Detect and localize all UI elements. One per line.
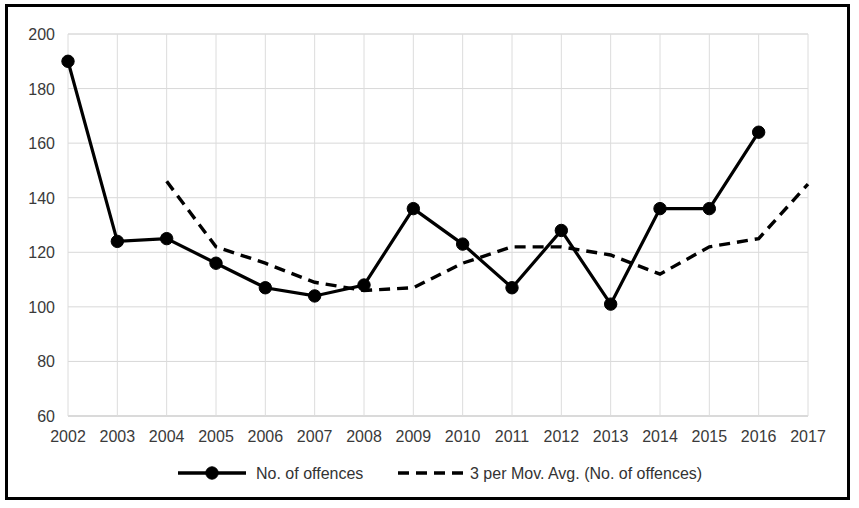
chart-frame: 6080100120140160180200 20022003200420052… <box>5 4 850 500</box>
line-chart: 6080100120140160180200 20022003200420052… <box>8 7 853 503</box>
x-axis-tick-label: 2017 <box>790 428 826 445</box>
x-axis-tick-label: 2005 <box>198 428 234 445</box>
data-point-marker <box>160 232 172 244</box>
y-axis-tick-label: 160 <box>28 135 55 152</box>
x-axis-tick-label: 2016 <box>741 428 777 445</box>
x-axis-tick-label: 2008 <box>346 428 382 445</box>
legend-layer: No. of offences3 per Mov. Avg. (No. of o… <box>178 465 702 482</box>
y-axis-tick-label: 80 <box>37 353 55 370</box>
y-axis-tick-label: 60 <box>37 408 55 425</box>
y-axis-tick-label: 100 <box>28 299 55 316</box>
data-point-marker <box>703 202 715 214</box>
data-point-marker <box>111 235 123 247</box>
x-axis-tick-label: 2009 <box>396 428 432 445</box>
x-axis-tick-label: 2011 <box>495 428 530 445</box>
data-point-marker <box>654 202 666 214</box>
x-axis-tick-label: 2002 <box>50 428 86 445</box>
x-axis-tick-label: 2013 <box>593 428 629 445</box>
legend-label-offences: No. of offences <box>256 465 363 482</box>
data-point-marker <box>308 290 320 302</box>
data-point-marker <box>407 202 419 214</box>
chart-canvas: 6080100120140160180200 20022003200420052… <box>8 7 847 497</box>
legend-marker-offences <box>206 467 218 479</box>
x-axis-tick-label: 2014 <box>642 428 678 445</box>
y-axis-tick-label: 200 <box>28 26 55 43</box>
y-axis-tick-label: 120 <box>28 244 55 261</box>
y-axis-tick-label: 180 <box>28 81 55 98</box>
series-layer <box>62 55 808 310</box>
data-point-marker <box>456 238 468 250</box>
y-axis-tick-label: 140 <box>28 190 55 207</box>
data-point-marker <box>752 126 764 138</box>
data-point-marker <box>210 257 222 269</box>
x-axis-tick-label: 2010 <box>445 428 481 445</box>
data-point-marker <box>604 298 616 310</box>
x-axis-tick-label: 2012 <box>544 428 580 445</box>
x-axis-tick-labels: 2002200320042005200620072008200920102011… <box>50 428 826 445</box>
x-axis-tick-label: 2003 <box>100 428 136 445</box>
data-point-marker <box>259 282 271 294</box>
data-point-marker <box>62 55 74 67</box>
legend-label-moving-average: 3 per Mov. Avg. (No. of offences) <box>470 465 702 482</box>
data-point-marker <box>506 282 518 294</box>
x-axis-tick-label: 2004 <box>149 428 185 445</box>
x-axis-tick-label: 2015 <box>692 428 728 445</box>
data-point-marker <box>555 224 567 236</box>
x-axis-tick-label: 2006 <box>248 428 284 445</box>
x-axis-tick-label: 2007 <box>297 428 333 445</box>
y-axis-tick-labels: 6080100120140160180200 <box>28 26 55 425</box>
